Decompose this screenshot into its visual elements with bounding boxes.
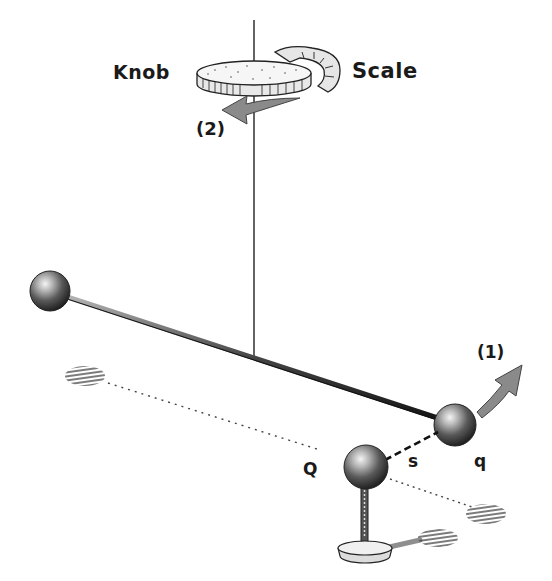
separation-s-label: s xyxy=(408,451,418,471)
charge-q-sphere xyxy=(434,404,476,446)
knob-label: Knob xyxy=(113,61,170,83)
charge-q-label: q xyxy=(474,451,486,471)
knob-disc xyxy=(197,61,311,96)
torsion-balance-diagram: Knob Scale (2) (1) Q s q xyxy=(0,0,552,581)
scale-label: Scale xyxy=(352,59,418,83)
fixed-charge-stand xyxy=(338,478,392,563)
arrow-2-label: (2) xyxy=(196,118,225,139)
charge-Q-label: Q xyxy=(303,459,317,479)
ground-shadows xyxy=(65,366,506,548)
rotation-arrow-2 xyxy=(222,96,300,124)
arrow-1-label: (1) xyxy=(477,342,504,362)
diagram-canvas xyxy=(0,0,552,581)
left-sphere xyxy=(30,271,70,311)
charge-Q-sphere xyxy=(344,445,388,489)
force-arrow-1 xyxy=(477,365,522,418)
